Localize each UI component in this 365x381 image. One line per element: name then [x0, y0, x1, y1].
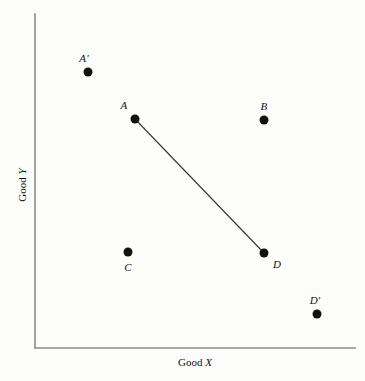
x-axis-title-prefix: Good: [178, 356, 205, 368]
axes-and-series: [0, 0, 365, 381]
data-point-d-prime: [313, 310, 322, 319]
data-label-c: C: [124, 261, 132, 273]
data-label-d: D: [273, 258, 281, 270]
y-axis-title-prefix: Good: [16, 174, 28, 201]
data-point-d: [260, 249, 269, 258]
data-point-b: [260, 116, 269, 125]
y-axis-title: Good Y: [16, 168, 28, 201]
scatter-figure: A' A B C D D' Good X Good Y: [0, 0, 365, 381]
x-axis-title-variable: X: [205, 356, 212, 368]
data-label-d-prime: D': [310, 294, 321, 306]
data-point-c: [124, 248, 133, 257]
data-point-a: [131, 115, 140, 124]
segment-a-to-d: [135, 119, 264, 253]
data-label-a: A: [121, 99, 128, 111]
data-label-a-prime: A': [79, 52, 88, 64]
data-point-a-prime: [84, 68, 93, 77]
y-axis-title-variable: Y: [16, 168, 28, 174]
data-label-b: B: [261, 100, 268, 112]
x-axis-title: Good X: [178, 356, 212, 368]
